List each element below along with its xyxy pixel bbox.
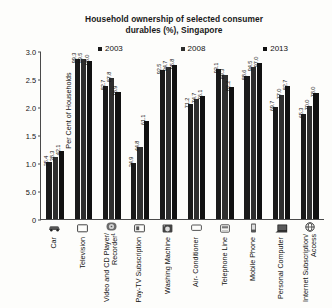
x-axis-label: Internet Subscription/ Access [302, 234, 318, 307]
bar-value-label: 99.5 [77, 53, 83, 64]
x-axis-category: Washing Machine [154, 221, 182, 307]
x-axis-category: Mobile Phone [239, 221, 267, 307]
bar-group: 71.274.776.1 [182, 52, 210, 219]
bar-group: 99.399.598.0 [69, 52, 97, 219]
bars-container: 35.438.342.199.399.598.082.787.878.934.9… [41, 52, 324, 219]
bar: 94.5 [251, 67, 256, 219]
x-axis-label: Car [50, 237, 58, 249]
x-axis-label: Mobile Phone [249, 237, 257, 281]
bar-value-label: 82.7 [282, 80, 288, 91]
bar-group: 82.787.878.9 [98, 52, 126, 219]
x-axis-label: Pay-TV Subscription [135, 237, 143, 303]
bar-value-label: 95.8 [169, 59, 175, 70]
bar-value-label: 78.0 [310, 87, 316, 98]
bar: 61.1 [144, 121, 149, 219]
bar: 71.2 [188, 104, 193, 219]
y-tick-mark [38, 136, 41, 137]
bar-value-label: 89.3 [219, 69, 225, 80]
x-axis-category: Telephone Line [210, 221, 238, 307]
y-tick-mark [38, 192, 41, 193]
telephone-icon [220, 221, 230, 235]
mobile-phone-icon [250, 221, 257, 235]
legend-swatch-icon [98, 47, 102, 51]
bar: 99.3 [75, 59, 80, 219]
bar-value-label: 94.7 [162, 60, 168, 71]
y-tick-mark [38, 52, 41, 53]
bar-group: 88.694.597.0 [239, 52, 267, 219]
bar: 78.9 [115, 92, 120, 219]
bar: 65.3 [301, 114, 306, 219]
bar: 44.8 [137, 147, 142, 219]
bar-value-label: 65.3 [298, 108, 304, 119]
bar: 78.0 [313, 93, 318, 219]
bar-value-label: 74.7 [191, 92, 197, 103]
bar-value-label: 88.6 [241, 70, 247, 81]
x-axis-category: Car [40, 221, 68, 307]
bar: 88.6 [244, 76, 249, 219]
disc-player-icon [106, 221, 117, 231]
chart-title-line-1: Household ownership of selected consumer [85, 14, 263, 24]
x-axis-labels: CarTelevisionVideo and CD Player/ Record… [40, 221, 324, 307]
pay-tv-icon [134, 221, 145, 235]
bar-group: 69.777.082.7 [267, 52, 295, 219]
bar-group: 92.594.795.8 [154, 52, 182, 219]
x-axis-label: Video and CD Player/ Recorder¹ [103, 233, 119, 307]
chart-figure: Household ownership of selected consumer… [0, 0, 332, 308]
bar: 82.7 [285, 86, 290, 219]
car-icon [48, 221, 61, 235]
bar: 38.3 [53, 157, 58, 219]
x-axis-category: Personal Computer [267, 221, 295, 307]
bar-value-label: 44.8 [134, 141, 140, 152]
bar-group: 35.438.342.1 [41, 52, 69, 219]
bar-value-label: 98.0 [84, 55, 90, 66]
bar-value-label: 78.9 [112, 86, 118, 97]
bar-value-label: 69.7 [269, 101, 275, 112]
bar: 76.1 [200, 96, 205, 219]
bar: 95.8 [172, 65, 177, 219]
bar: 98.0 [87, 61, 92, 219]
x-axis-label: Television [79, 237, 87, 269]
bar: 97.0 [257, 63, 262, 219]
bar: 77.0 [279, 95, 284, 219]
bar-value-label: 71.2 [184, 98, 190, 109]
bar: 89.3 [222, 75, 227, 219]
bar: 35.4 [46, 162, 51, 219]
x-axis-category: Air- Conditioner [182, 221, 210, 307]
bar-value-label: 42.1 [55, 145, 61, 156]
chart-title-line-2: durables (%), Singapore [125, 25, 222, 35]
x-axis-label: Washing Machine [164, 237, 172, 294]
computer-icon [275, 221, 288, 235]
bar: 94.7 [166, 67, 171, 219]
bar: 82.7 [103, 86, 108, 219]
y-tick-mark [38, 108, 41, 109]
bar-value-label: 77.0 [276, 89, 282, 100]
bar: 69.7 [273, 107, 278, 219]
bar-value-label: 97.0 [253, 57, 259, 68]
bar-value-label: 70.0 [304, 100, 310, 111]
x-axis-category: Video and CD Player/ Recorder¹ [97, 221, 125, 307]
internet-globe-icon [305, 221, 315, 232]
washing-machine-icon [162, 221, 173, 235]
x-axis-category: Internet Subscription/ Access [296, 221, 324, 307]
bar: 34.9 [131, 163, 136, 219]
bar: 99.5 [81, 59, 86, 219]
x-axis-label: Telephone Line [221, 237, 229, 286]
bar: 70.0 [307, 106, 312, 219]
x-axis-label: Air- Conditioner [192, 237, 200, 287]
bar: 93.1 [216, 69, 221, 219]
legend-swatch-icon [263, 47, 267, 51]
legend-swatch-icon [181, 47, 185, 51]
bar-value-label: 76.1 [197, 90, 203, 101]
bar-value-label: 87.8 [106, 71, 112, 82]
bar-group: 65.370.078.0 [296, 52, 324, 219]
bar-value-label: 82.2 [225, 80, 231, 91]
x-axis-label: Personal Computer [277, 237, 285, 299]
bar: 82.2 [229, 87, 234, 219]
bar: 42.1 [59, 151, 64, 219]
plot-area: Per Cent of Households 35.438.342.199.39… [40, 52, 324, 220]
bar-group: 34.944.861.1 [126, 52, 154, 219]
chart-title: Household ownership of selected consumer… [38, 14, 310, 35]
bar: 74.7 [194, 99, 199, 219]
x-axis-category: Television [68, 221, 96, 307]
air-conditioner-icon [191, 221, 202, 235]
